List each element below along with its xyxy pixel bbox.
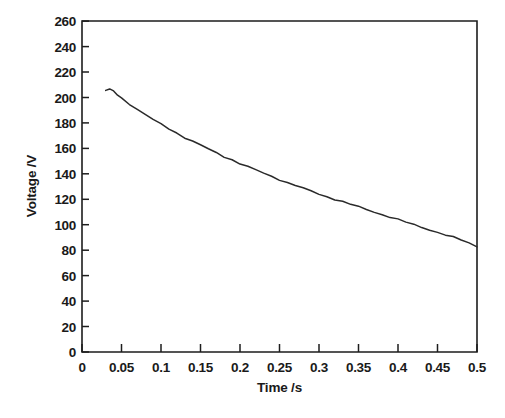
voltage-decay-chart: 0 20 40 60 80 100 120 140 160 180 200 22…	[0, 0, 505, 418]
x-tick-labels: 0 0.05 0.1 0.15 0.2 0.25 0.3 0.35 0.4 0.…	[78, 360, 486, 375]
y-tick-label: 60	[62, 269, 76, 284]
x-tick-label: 0.25	[267, 360, 293, 375]
x-tick-label: 0.1	[152, 360, 171, 375]
x-tick-label: 0.3	[310, 360, 329, 375]
x-tick-label: 0	[78, 360, 85, 375]
x-tick-label: 0.35	[346, 360, 372, 375]
y-tick-label: 20	[62, 320, 76, 335]
y-tick-label: 0	[69, 345, 76, 360]
x-tick-label: 0.05	[109, 360, 135, 375]
x-tick-label: 0.5	[468, 360, 487, 375]
x-axis-title: Time /s	[257, 380, 302, 395]
y-tick-label: 100	[54, 218, 76, 233]
y-axis-title: Voltage /V	[24, 155, 39, 217]
y-tick-label: 180	[54, 116, 76, 131]
y-tick-label: 80	[62, 243, 76, 258]
figure-container: 0 20 40 60 80 100 120 140 160 180 200 22…	[0, 0, 505, 418]
x-tick-label: 0.45	[425, 360, 451, 375]
x-tick-label: 0.2	[231, 360, 249, 375]
x-axis-ticks	[82, 344, 477, 352]
y-tick-label: 240	[54, 40, 76, 55]
y-tick-label: 200	[54, 91, 76, 106]
y-tick-label: 260	[54, 14, 76, 29]
y-tick-label: 120	[54, 192, 76, 207]
plot-frame	[82, 21, 477, 352]
y-tick-labels: 0 20 40 60 80 100 120 140 160 180 200 22…	[54, 14, 76, 360]
y-tick-label: 40	[62, 294, 76, 309]
x-tick-label: 0.4	[389, 360, 408, 375]
x-tick-label: 0.15	[188, 360, 214, 375]
y-tick-label: 140	[54, 167, 76, 182]
voltage-decay-curve	[106, 89, 477, 247]
y-tick-label: 220	[54, 65, 76, 80]
y-tick-label: 160	[54, 141, 76, 156]
y-axis-ticks	[82, 21, 89, 352]
